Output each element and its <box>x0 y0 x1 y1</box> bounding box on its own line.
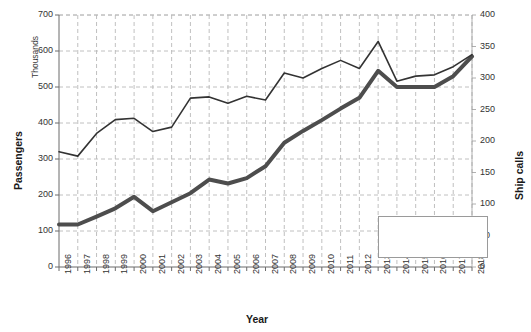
x-tick-label: 2001 <box>157 254 167 274</box>
y-tick-label: 700 <box>15 9 53 19</box>
x-tick-label: 2004 <box>213 254 223 274</box>
y-tick-label: 600 <box>15 45 53 55</box>
x-tick-label: 2003 <box>194 254 204 274</box>
y-tick-label: 100 <box>15 225 53 235</box>
x-tick-label: 1999 <box>119 254 129 274</box>
secondary-y-tick-label: 200 <box>480 135 495 145</box>
x-tick-label: 1998 <box>101 254 111 274</box>
chart-legend: Passengers Ship calls <box>378 216 488 258</box>
secondary-y-tick-label: 150 <box>480 167 495 177</box>
secondary-y-tick-label: 300 <box>480 72 495 82</box>
x-tick-label: 1997 <box>82 254 92 274</box>
secondary-y-tick-label: 350 <box>480 41 495 51</box>
x-tick-label: 2008 <box>288 254 298 274</box>
secondary-y-tick-label: 250 <box>480 104 495 114</box>
x-tick-label: 2009 <box>307 254 317 274</box>
x-tick-label: 2005 <box>232 254 242 274</box>
plot-area <box>0 0 531 332</box>
x-tick-label: 2012 <box>363 254 373 274</box>
secondary-y-tick-label: 400 <box>480 9 495 19</box>
cruise-traffic-line-chart: Thousands Passengers Ship calls Year 010… <box>0 0 531 332</box>
y-tick-label: 0 <box>15 261 53 271</box>
x-tick-label: 2010 <box>326 254 336 274</box>
x-tick-label: 1996 <box>63 254 73 274</box>
y-tick-label: 400 <box>15 117 53 127</box>
secondary-y-tick-label: 100 <box>480 198 495 208</box>
y-tick-label: 200 <box>15 189 53 199</box>
y-tick-label: 300 <box>15 153 53 163</box>
x-tick-label: 2011 <box>345 255 355 274</box>
x-tick-label: 2002 <box>176 254 186 274</box>
y-tick-label: 500 <box>15 81 53 91</box>
x-tick-label: 2006 <box>251 254 261 274</box>
x-tick-label: 2000 <box>138 254 148 274</box>
x-tick-label: 2007 <box>270 254 280 274</box>
